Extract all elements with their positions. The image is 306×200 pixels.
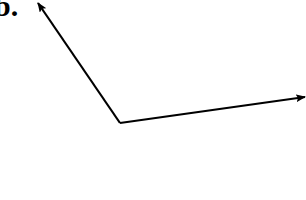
vector-diagram xyxy=(0,0,306,200)
vector-up-left-arrow xyxy=(38,3,120,123)
vector-right-arrow xyxy=(120,97,305,123)
